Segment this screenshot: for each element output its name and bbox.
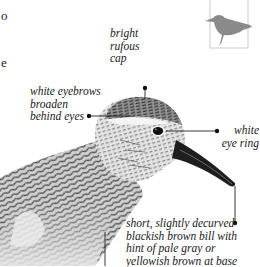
- annotation-eyebrows: white eyebrows broaden behind eyes: [30, 85, 130, 123]
- annotation-bill: short, slightly decurved blackish brown …: [126, 217, 257, 267]
- annotation-cap: bright rufous cap: [110, 27, 155, 65]
- annotation-eye-ring: white eye ring: [214, 124, 259, 149]
- shorebird-silhouette-icon: [198, 0, 257, 52]
